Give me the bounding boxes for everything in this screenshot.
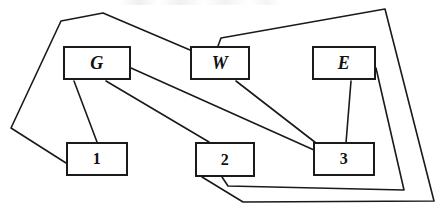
node-3-label: 3 <box>340 151 349 167</box>
node-W-label: W <box>212 54 229 72</box>
node-1-label: 1 <box>93 151 102 167</box>
node-2-label: 2 <box>221 152 230 168</box>
edge-G-to-1 <box>74 81 97 142</box>
node-1[interactable]: 1 <box>66 142 128 176</box>
node-2[interactable]: 2 <box>195 142 255 177</box>
node-3[interactable]: 3 <box>313 142 375 176</box>
edge-G-to-3 <box>131 68 314 150</box>
node-G-label: G <box>90 54 104 72</box>
graph-edge-layer <box>0 0 444 220</box>
node-G[interactable]: G <box>63 46 131 80</box>
node-E[interactable]: E <box>312 46 376 80</box>
edge-1-to-W-outer-left-path <box>11 13 190 163</box>
edge-G-to-2 <box>106 81 209 142</box>
edge-E-to-3 <box>346 81 351 143</box>
node-W[interactable]: W <box>190 46 250 80</box>
diagram-canvas: G W E 1 2 3 <box>0 0 444 220</box>
node-E-label: E <box>338 54 351 72</box>
